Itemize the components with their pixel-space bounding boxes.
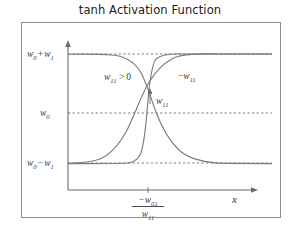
ann-pos-value: 0 xyxy=(126,72,131,82)
xtick-fraction-label: −w01 w11 xyxy=(132,195,164,221)
ann-pos-sub: 11 xyxy=(110,77,116,84)
ytick-label-mid: w0 xyxy=(40,108,50,120)
svg-text:w11: w11 xyxy=(156,96,168,108)
svg-text:w11: w11 xyxy=(142,209,154,221)
curve-steep-rising xyxy=(68,54,272,164)
ytick-mid-sub1: 0 xyxy=(46,113,50,120)
frac-den-sub: 11 xyxy=(148,214,154,221)
frac-num-sub: 01 xyxy=(151,200,158,207)
ytick-bot-sub1: 0 xyxy=(33,163,37,170)
ytick-bot-sub2: 1 xyxy=(51,163,54,170)
svg-text:w0: w0 xyxy=(40,108,50,120)
curve-falling xyxy=(68,54,272,164)
svg-text:w0−w1: w0−w1 xyxy=(27,158,54,170)
ann-arr-sub: 11 xyxy=(162,101,168,108)
ann-pos-op: > xyxy=(119,72,124,82)
x-axis-arrow-icon xyxy=(251,187,258,193)
ytick-top-sub2: 1 xyxy=(51,54,54,61)
annotation-increasing-weight: w11 xyxy=(156,96,168,108)
figure-border xyxy=(22,23,281,218)
ytick-top-op: + xyxy=(38,49,43,59)
x-axis-label: x xyxy=(231,193,237,205)
curve-shallow-rising xyxy=(68,54,272,163)
frac-num-base: −w xyxy=(138,195,151,205)
svg-text:w0+w1: w0+w1 xyxy=(27,49,54,61)
ytick-top-sub1: 0 xyxy=(33,54,37,61)
svg-text:−w11: −w11 xyxy=(178,71,196,83)
svg-text:−w01: −w01 xyxy=(138,195,157,207)
ann-neg-sub: 11 xyxy=(190,76,196,83)
annotation-positive-weight: w11>0 xyxy=(104,72,131,84)
svg-text:w11>0: w11>0 xyxy=(104,72,131,84)
y-axis-arrow-icon xyxy=(65,40,71,47)
ytick-bot-op: − xyxy=(38,158,43,168)
tanh-plot: w0+w1 w0 w0−w1 −w01 w11 x xyxy=(0,0,300,240)
figure-container: tanh Activation Function w0+w1 xyxy=(0,0,300,240)
page-title: tanh Activation Function xyxy=(0,3,300,17)
ytick-label-bottom: w0−w1 xyxy=(27,158,54,170)
ytick-label-top: w0+w1 xyxy=(27,49,54,61)
annotation-negative-weight: −w11 xyxy=(178,71,196,83)
